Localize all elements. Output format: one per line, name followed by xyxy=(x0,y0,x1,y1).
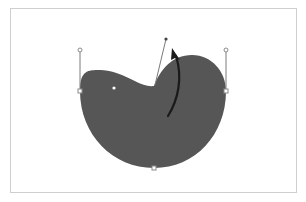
edited-shape[interactable] xyxy=(80,55,226,168)
right-handle-point[interactable] xyxy=(224,48,228,52)
vector-canvas[interactable] xyxy=(0,0,306,202)
right-anchor-point[interactable] xyxy=(224,89,228,93)
left-anchor-point[interactable] xyxy=(78,89,82,93)
drag-arrow-head-icon xyxy=(171,48,180,60)
middle-handle-point[interactable] xyxy=(164,37,167,40)
left-handle-point[interactable] xyxy=(78,48,82,52)
bottom-anchor-point[interactable] xyxy=(152,166,156,170)
interior-point[interactable] xyxy=(112,86,115,89)
